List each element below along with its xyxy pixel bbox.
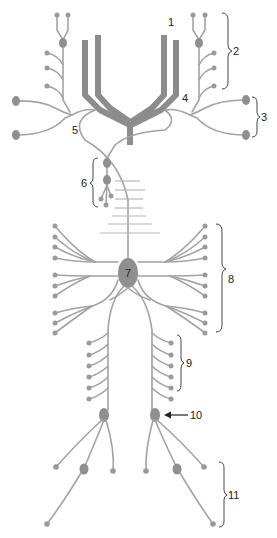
nervous-system-diagram: 1 2 3 4 5 6 7 8 9 10 11 bbox=[0, 0, 277, 538]
lower-ganglia bbox=[44, 408, 216, 527]
ganglion-chain-6 bbox=[99, 158, 114, 208]
label-7: 7 bbox=[125, 267, 131, 279]
label-3: 3 bbox=[261, 111, 267, 123]
label-9: 9 bbox=[186, 357, 192, 369]
arrow-10 bbox=[164, 412, 188, 419]
label-1: 1 bbox=[168, 16, 174, 28]
label-11: 11 bbox=[228, 489, 239, 501]
label-6: 6 bbox=[81, 177, 87, 189]
label-10: 10 bbox=[190, 409, 202, 421]
label-2: 2 bbox=[233, 45, 239, 57]
label-8: 8 bbox=[228, 273, 234, 285]
label-4: 4 bbox=[182, 92, 188, 104]
label-5: 5 bbox=[72, 124, 78, 136]
central-ganglion-7 bbox=[53, 224, 208, 336]
main-trunk bbox=[85, 35, 176, 145]
